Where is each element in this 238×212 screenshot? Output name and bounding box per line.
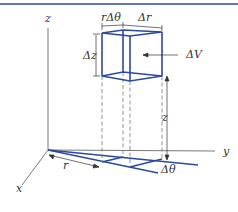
radius-r-label: r	[63, 160, 68, 171]
base-arc-inner	[102, 157, 123, 162]
volume-element	[102, 30, 162, 81]
height-z-label: z	[162, 112, 168, 123]
y-axis-label: y	[223, 146, 229, 157]
x-axis	[22, 150, 48, 185]
diagram: z rΔθ Δr Δz ΔV z y r Δθ x	[0, 0, 238, 212]
delta-theta-label: Δθ	[161, 164, 176, 175]
y-axis	[48, 150, 215, 151]
diagram-canvas	[0, 0, 238, 212]
delta-v-label: ΔV	[186, 49, 202, 60]
delta-r-label: Δr	[138, 12, 151, 23]
dimension-arrows	[49, 22, 178, 168]
delta-z-label: Δz	[83, 50, 97, 61]
projection-lines	[102, 72, 162, 167]
x-axis-label: x	[16, 183, 22, 194]
z-axis-label: z	[45, 13, 51, 24]
r-delta-theta-label: rΔθ	[101, 12, 121, 23]
